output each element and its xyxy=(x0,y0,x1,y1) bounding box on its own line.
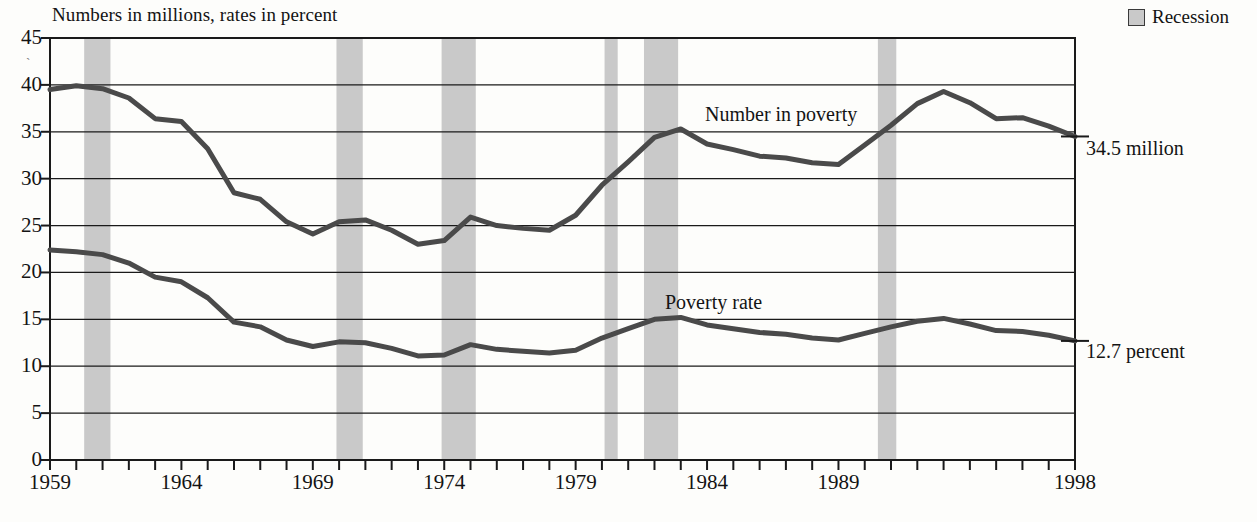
y-axis-tick-label: 35 xyxy=(2,119,42,144)
recession-band xyxy=(84,38,110,460)
series-line xyxy=(50,86,1075,244)
recession-band xyxy=(336,38,362,460)
y-axis-tick-label: 45 xyxy=(2,25,42,50)
end-label-rate: 12.7 percent xyxy=(1086,340,1185,363)
y-axis-tick-label: 40 xyxy=(2,72,42,97)
end-label-number: 34.5 million xyxy=(1086,137,1184,160)
y-axis-tick-label: 25 xyxy=(2,213,42,238)
recession-band xyxy=(644,38,678,460)
x-axis-tick-label: 1969 xyxy=(268,470,358,495)
x-axis-tick-label: 1998 xyxy=(1030,470,1120,495)
x-axis-tick-label: 1974 xyxy=(399,470,489,495)
recession-band xyxy=(878,38,896,460)
recession-band xyxy=(605,38,618,460)
y-axis-tick-label: 5 xyxy=(2,400,42,425)
poverty-chart-figure: Numbers in millions, rates in percent ` … xyxy=(0,0,1257,522)
x-axis-tick-label: 1989 xyxy=(793,470,883,495)
y-axis-tick-label: 20 xyxy=(2,259,42,284)
chart-canvas xyxy=(0,0,1257,522)
y-axis-tick-label: 15 xyxy=(2,306,42,331)
series-label-poverty-rate: Poverty rate xyxy=(665,291,762,314)
y-axis-tick-label: 30 xyxy=(2,166,42,191)
y-axis-tick-label: 0 xyxy=(2,447,42,472)
series-line xyxy=(50,250,1075,356)
x-axis-tick-label: 1959 xyxy=(5,470,95,495)
y-axis-tick-label: 10 xyxy=(2,353,42,378)
recession-band xyxy=(442,38,476,460)
x-axis-tick-label: 1984 xyxy=(662,470,752,495)
series-label-number-in-poverty: Number in poverty xyxy=(705,103,857,126)
plot-area xyxy=(0,0,1257,522)
x-axis-tick-label: 1979 xyxy=(531,470,621,495)
x-axis-tick-label: 1964 xyxy=(136,470,226,495)
